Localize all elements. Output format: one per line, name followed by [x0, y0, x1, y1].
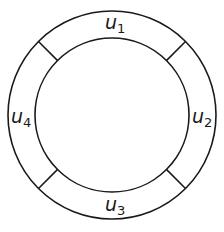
inner-circle	[35, 38, 189, 192]
region-label-u2: u2	[192, 105, 212, 130]
annulus-diagram: u1 u2 u3 u4	[0, 0, 224, 232]
region-label-u3: u3	[105, 193, 125, 218]
divider-bottom-left	[39, 169, 58, 188]
divider-top-right	[166, 42, 185, 61]
region-label-u1: u1	[105, 11, 125, 36]
region-label-u4: u4	[11, 105, 31, 130]
divider-top-left	[39, 42, 58, 61]
divider-bottom-right	[166, 169, 185, 188]
